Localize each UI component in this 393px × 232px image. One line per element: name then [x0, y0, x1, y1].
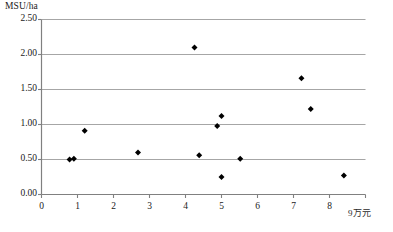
y-axis-tick-label: 0.50	[7, 153, 37, 163]
data-point	[308, 106, 314, 112]
data-point	[298, 75, 304, 81]
y-axis-tick-label: 1.50	[7, 83, 37, 93]
x-axis-tick-label: 3	[142, 201, 158, 211]
x-axis-tick-label: 5	[214, 201, 230, 211]
x-axis-tick-label: 2	[106, 201, 122, 211]
data-point	[237, 156, 243, 162]
data-point	[196, 152, 202, 158]
x-axis-tick-label: 8	[322, 201, 338, 211]
plot-area	[0, 0, 393, 232]
scatter-chart-figure: MSU/ha 9万元 0.000.501.001.502.002.5001234…	[0, 0, 393, 232]
y-axis-tick-label: 0.00	[7, 188, 37, 198]
y-axis-tick-label: 2.00	[7, 48, 37, 58]
data-point	[341, 173, 347, 179]
x-axis-tick-label: 4	[178, 201, 194, 211]
data-point	[82, 128, 88, 134]
x-axis-tick-label: 1	[70, 201, 86, 211]
x-axis-tick-label: 0	[34, 201, 50, 211]
data-point	[219, 174, 225, 180]
x-axis-tick-label: 7	[286, 201, 302, 211]
data-point	[192, 45, 198, 51]
x-axis-tick-label: 6	[250, 201, 266, 211]
data-point	[214, 123, 220, 129]
data-point	[135, 150, 141, 156]
data-point	[219, 113, 225, 119]
y-axis-tick-label: 2.50	[7, 13, 37, 23]
y-axis-tick-label: 1.00	[7, 118, 37, 128]
data-point	[71, 156, 77, 162]
x-axis-unit-label: 9万元	[348, 206, 371, 219]
